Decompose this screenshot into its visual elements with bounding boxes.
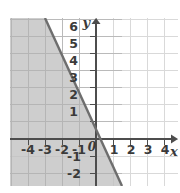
y-tick-label-neg2: -2	[67, 168, 81, 181]
y-tick-label-2: 2	[69, 89, 78, 102]
x-tick-label-3: 3	[144, 144, 153, 157]
x-tick-label-4: 4	[161, 144, 170, 157]
y-tick-label-3: 3	[69, 72, 78, 85]
coordinate-graph: 6 5 4 3 2 1 -1 -2 -4 -3 -2 -1 1 2 3 4 0 …	[0, 0, 180, 193]
x-tick-label-2: 2	[127, 144, 136, 157]
x-axis-label: x	[170, 145, 178, 158]
boundary-line	[45, 18, 122, 186]
x-tick-label-neg3: -3	[38, 144, 52, 157]
x-tick-label-neg2: -2	[55, 144, 69, 157]
y-tick-label-4: 4	[69, 55, 78, 68]
y-axis-label: y	[82, 16, 90, 29]
y-tick-label-1: 1	[69, 106, 78, 119]
boundary-line-layer	[10, 18, 178, 186]
x-tick-label-neg4: -4	[21, 144, 35, 157]
x-tick-label-neg1: -1	[72, 144, 86, 157]
y-tick-label-6: 6	[69, 21, 78, 34]
y-tick-label-5: 5	[69, 38, 78, 51]
x-tick-label-1: 1	[110, 144, 119, 157]
plot-area	[10, 18, 178, 186]
origin-label: 0	[88, 141, 96, 153]
